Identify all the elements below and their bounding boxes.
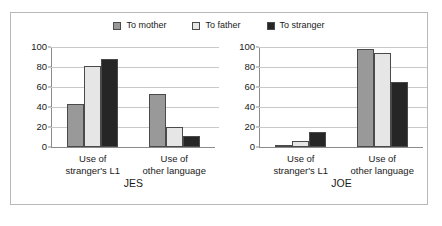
legend-label-to-stranger: To stranger [280,21,325,30]
legend-entry-to-mother: To mother [113,21,166,30]
bar-group [342,47,424,147]
y-axis-tick-mark [48,87,51,88]
bars-layer-joe [260,47,423,147]
bar [391,82,408,147]
chart-figure: To mother To father To stranger 02040608… [10,12,428,205]
legend-entry-to-father: To father [192,21,240,30]
plot-wrap-joe: 020406080100 [223,41,427,153]
legend-swatch-to-father-icon [192,22,200,30]
bar [357,49,374,147]
legend-label-to-mother: To mother [126,21,166,30]
bar [374,53,391,147]
x-axis-labels-joe: Use ofstranger's L1Use ofother language [260,153,423,176]
y-axis-tick-mark [256,47,259,48]
y-axis-tick-mark [48,47,51,48]
bar [149,94,166,147]
gridline [259,147,423,148]
legend-swatch-to-mother-icon [113,22,121,30]
bar-group [260,47,342,147]
x-axis-label: Use ofother language [134,153,216,176]
panel-title-joe: JOE [260,178,423,189]
plot-area-jes: 020406080100 [51,47,215,147]
bar [309,132,326,147]
y-axis-tick-mark [256,147,259,148]
legend-label-to-father: To father [205,21,240,30]
bar [275,145,292,147]
x-axis-label: Use ofstranger's L1 [52,153,134,176]
legend-swatch-to-stranger-icon [267,22,275,30]
chart-panel-joe: 020406080100 Use ofstranger's L1Use ofot… [223,41,427,201]
panel-title-jes: JES [52,178,215,189]
chart-panel-jes: 020406080100 Use ofstranger's L1Use ofot… [15,41,219,201]
y-axis-tick-mark [48,127,51,128]
bar [183,136,200,147]
y-axis-tick-mark [48,67,51,68]
x-axis-label: Use ofother language [342,153,424,176]
bar-group [134,47,216,147]
legend-entry-to-stranger: To stranger [267,21,325,30]
y-axis-tick-mark [48,147,51,148]
y-axis-tick-mark [48,107,51,108]
bar [292,141,309,147]
plot-wrap-jes: 020406080100 [15,41,219,153]
bars-layer-jes [52,47,215,147]
bar [101,59,118,147]
bar [166,127,183,147]
bar-group [52,47,134,147]
y-axis-tick-mark [256,87,259,88]
chart-legend: To mother To father To stranger [11,21,427,30]
y-axis-tick-mark [256,127,259,128]
gridline [51,147,215,148]
x-axis-labels-jes: Use ofstranger's L1Use ofother language [52,153,215,176]
bar [67,104,84,147]
plot-area-joe: 020406080100 [259,47,423,147]
x-axis-label: Use ofstranger's L1 [260,153,342,176]
y-axis-tick-mark [256,67,259,68]
y-axis-tick-mark [256,107,259,108]
bar [84,66,101,147]
